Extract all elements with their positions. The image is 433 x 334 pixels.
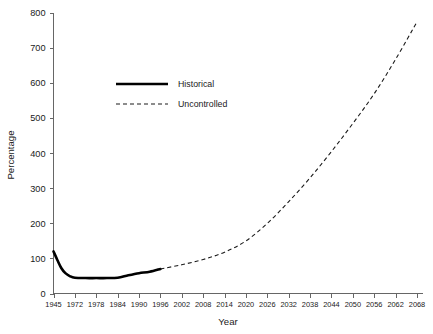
y-axis-tick-label: 500 xyxy=(30,113,45,123)
x-axis-tick-label: 2062 xyxy=(387,300,403,309)
y-axis-tick-label: 700 xyxy=(30,43,45,53)
y-axis-title: Percentage xyxy=(5,130,16,179)
x-axis-tick-labels: 1945197219781984199019962002200820142020… xyxy=(45,300,425,309)
y-axis-tick-label: 0 xyxy=(40,289,45,299)
x-axis-tick-label: 2014 xyxy=(216,300,232,309)
x-axis-tick-label: 2032 xyxy=(280,300,296,309)
x-axis-tick-label: 1996 xyxy=(152,300,168,309)
x-axis-title: Year xyxy=(218,316,238,327)
x-axis-tick-label: 1990 xyxy=(131,300,147,309)
x-axis-ticks xyxy=(55,294,418,298)
chart-legend: Historical Uncontrolled xyxy=(116,79,227,109)
y-axis-tick-label: 800 xyxy=(30,8,45,18)
x-axis-tick-label: 1972 xyxy=(67,300,83,309)
legend-label-historical: Historical xyxy=(178,79,214,89)
y-axis-tick-labels: 0100200300400500600700800 xyxy=(30,8,45,299)
x-axis-tick-label: 2068 xyxy=(409,300,425,309)
x-axis-tick-label: 1984 xyxy=(109,300,125,309)
chart-figure: 0100200300400500600700800 19451972197819… xyxy=(0,0,433,334)
y-axis-tick-label: 300 xyxy=(30,184,45,194)
x-axis-tick-label: 2050 xyxy=(345,300,361,309)
x-axis-tick-label: 1945 xyxy=(45,300,61,309)
x-axis-tick-label: 2008 xyxy=(195,300,211,309)
x-axis-tick-label: 2026 xyxy=(259,300,275,309)
legend-label-uncontrolled: Uncontrolled xyxy=(178,99,227,109)
y-axis-tick-label: 200 xyxy=(30,219,45,229)
y-axis-tick-label: 600 xyxy=(30,78,45,88)
series-line-historical xyxy=(54,251,161,278)
line-chart-plot: 0100200300400500600700800 19451972197819… xyxy=(0,0,433,334)
y-axis-tick-label: 400 xyxy=(30,149,45,159)
y-axis-tick-label: 100 xyxy=(30,254,45,264)
x-axis-tick-label: 2056 xyxy=(366,300,382,309)
series-line-uncontrolled xyxy=(160,22,417,269)
x-axis-tick-label: 2038 xyxy=(302,300,318,309)
x-axis-tick-label: 2020 xyxy=(238,300,254,309)
x-axis-tick-label: 2044 xyxy=(323,300,339,309)
x-axis-tick-label: 2002 xyxy=(174,300,190,309)
x-axis-tick-label: 1978 xyxy=(88,300,104,309)
